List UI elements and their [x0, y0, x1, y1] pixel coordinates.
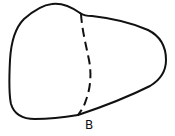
- point-b-label: B: [85, 119, 93, 132]
- right-lobe-outline: [78, 13, 166, 115]
- left-lobe-outline: [9, 4, 80, 119]
- dividing-dashed-line: [78, 14, 90, 115]
- lobed-shape-diagram: [0, 0, 175, 136]
